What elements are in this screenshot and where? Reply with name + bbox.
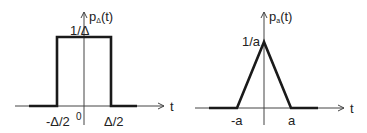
right-tick-pos: a	[288, 114, 295, 127]
left-t-axis-label: t	[170, 100, 174, 113]
right-tick-neg: -a	[231, 114, 243, 127]
left-tick-pos: Δ/2	[104, 115, 124, 128]
right-height-label: 1/a	[242, 35, 260, 48]
right-function-label: pa(t)	[269, 10, 292, 24]
left-tick-neg: -Δ/2	[46, 115, 70, 128]
left-function-label: pΔ(t)	[89, 10, 113, 24]
rectangular-pulse	[29, 37, 137, 106]
left-height-label: 1/Δ	[70, 24, 90, 37]
right-t-axis-label: t	[350, 102, 354, 115]
left-tick-zero: 0	[76, 112, 82, 122]
